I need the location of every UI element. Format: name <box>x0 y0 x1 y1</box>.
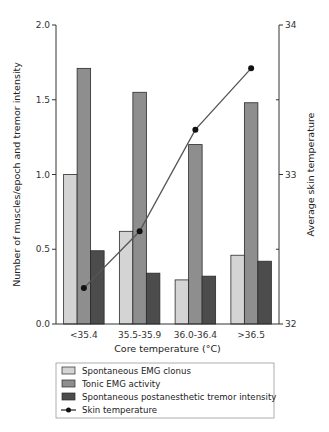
bar-spontaneous-postanesthetic-tremor-intensity-0 <box>91 251 105 324</box>
x-axis-title: Core temperature (°C) <box>114 343 221 354</box>
skin-temperature-line <box>84 68 251 288</box>
bar-spontaneous-emg-clonus-2 <box>175 280 189 324</box>
skin-temperature-point-2 <box>192 127 198 133</box>
bar-tonic-emg-activity-2 <box>189 145 203 324</box>
legend-swatch <box>62 380 75 387</box>
legend-label: Spontaneous postanesthetic tremor intens… <box>82 392 276 402</box>
right-tick-label: 34 <box>285 20 297 30</box>
bar-spontaneous-postanesthetic-tremor-intensity-2 <box>202 276 216 324</box>
right-tick-label: 33 <box>285 170 296 180</box>
y2-axis-title: Average skin temperature <box>305 112 316 236</box>
bar-tonic-emg-activity-3 <box>244 103 258 324</box>
legend-label: Skin temperature <box>82 405 157 415</box>
x-tick-label: 36.0-36.4 <box>174 330 218 340</box>
x-tick-label: <35.4 <box>70 330 98 340</box>
bars-layer <box>64 68 272 324</box>
left-tick-label: 2.0 <box>36 20 51 30</box>
bar-spontaneous-emg-clonus-3 <box>231 255 245 324</box>
legend-label: Tonic EMG activity <box>81 379 160 389</box>
left-tick-label: 1.5 <box>36 95 50 105</box>
left-tick-label: 0.5 <box>36 244 50 254</box>
bar-spontaneous-postanesthetic-tremor-intensity-1 <box>146 273 160 324</box>
skin-temperature-line-layer <box>81 65 254 291</box>
left-tick-label: 1.0 <box>36 170 51 180</box>
legend: Spontaneous EMG clonusTonic EMG activity… <box>56 363 276 418</box>
bar-spontaneous-postanesthetic-tremor-intensity-3 <box>258 261 272 324</box>
right-tick-label: 32 <box>285 319 296 329</box>
bar-tonic-emg-activity-1 <box>133 92 147 324</box>
legend-marker <box>66 408 71 413</box>
legend-swatch <box>62 393 75 400</box>
chart: 0.00.51.01.52.0 323334 <35.435.5-35.936.… <box>0 0 329 432</box>
x-tick-labels: <35.435.5-35.936.0-36.4>36.5 <box>70 330 265 340</box>
x-tick-label: >36.5 <box>237 330 265 340</box>
skin-temperature-point-3 <box>248 65 254 71</box>
skin-temperature-point-0 <box>81 285 87 291</box>
legend-swatch <box>62 367 75 374</box>
x-tick-label: 35.5-35.9 <box>118 330 162 340</box>
bar-spontaneous-emg-clonus-0 <box>64 175 78 325</box>
y-axis-title: Number of muscles/epoch and tremor inten… <box>11 62 22 287</box>
left-tick-label: 0.0 <box>36 319 51 329</box>
left-y-ticks: 0.00.51.01.52.0 <box>36 20 56 329</box>
skin-temperature-point-1 <box>137 228 143 234</box>
legend-label: Spontaneous EMG clonus <box>82 366 191 376</box>
